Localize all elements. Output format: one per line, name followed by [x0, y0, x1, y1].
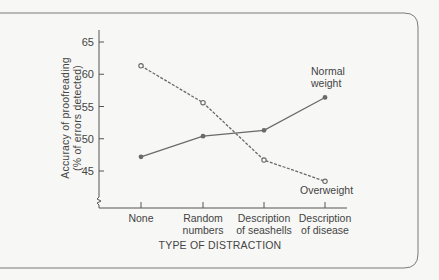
open-circle-marker-icon [262, 158, 266, 162]
y-axis-title: Accuracy of proofreading(% of errors det… [59, 57, 83, 179]
filled-circle-marker-icon [323, 95, 328, 100]
open-circle-marker-icon [201, 100, 205, 104]
y-tick-label: 55 [82, 101, 94, 113]
x-category-label: Description [299, 212, 352, 224]
series-line [141, 66, 325, 181]
y-axis-title-line: (% of errors detected) [71, 65, 83, 171]
axes: 4550556065 [82, 30, 347, 208]
series-label-normal-weight: Normal [311, 65, 345, 77]
series-label-normal-weight: weight [310, 77, 341, 89]
x-category-label: Description [238, 212, 291, 224]
x-category-label: Random [183, 212, 223, 224]
y-axis-title-line: Accuracy of proofreading [59, 57, 71, 179]
y-tick-label: 50 [82, 133, 94, 145]
line-chart: 4550556065 Accuracy of proofreading(% of… [0, 0, 439, 280]
x-category-label: of disease [301, 224, 349, 236]
open-circle-marker-icon [139, 64, 143, 68]
y-axis-title-group: Accuracy of proofreading(% of errors det… [59, 57, 83, 179]
filled-circle-marker-icon [201, 134, 206, 139]
x-category-label: numbers [183, 224, 224, 236]
chart-figure: 4550556065 Accuracy of proofreading(% of… [0, 0, 439, 280]
filled-circle-marker-icon [139, 154, 144, 159]
x-axis-title: TYPE OF DISTRACTION [159, 239, 282, 251]
x-axis-categories: NoneRandomnumbersDescriptionof seashells… [128, 212, 351, 236]
y-tick-label: 65 [82, 36, 94, 48]
axis-break-icon [97, 197, 101, 205]
series-line [141, 97, 325, 156]
open-circle-marker-icon [323, 179, 327, 183]
x-category-label: None [128, 212, 153, 224]
series-layer: NormalweightOverweight [139, 64, 354, 196]
filled-circle-marker-icon [262, 128, 267, 133]
series-label-overweight: Overweight [300, 184, 353, 196]
series-normal-weight: Normalweight [139, 65, 345, 159]
y-tick-label: 60 [82, 68, 94, 80]
y-tick-label: 45 [82, 165, 94, 177]
x-category-label: of seashells [236, 224, 291, 236]
